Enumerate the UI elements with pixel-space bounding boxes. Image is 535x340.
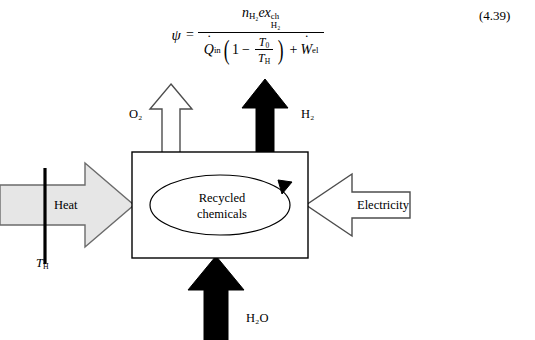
electricity-arrow-label: Electricity	[357, 198, 409, 213]
heat-arrow-label: Heat	[54, 198, 78, 213]
recycle-loop-label: Recycled chemicals	[192, 191, 252, 222]
process-diagram	[0, 0, 535, 340]
oxygen-arrow	[150, 84, 192, 154]
recycle-loop-label-line1: Recycled	[192, 191, 252, 207]
recycle-loop-label-line2: chemicals	[192, 207, 252, 223]
water-arrow	[188, 256, 244, 340]
hydrogen-label: H₂	[301, 107, 314, 122]
temperature-marker-label: TH	[36, 256, 49, 271]
hydrogen-arrow	[242, 79, 288, 154]
temperature-marker-subscript: H	[43, 262, 49, 271]
water-label: H₂O	[246, 311, 268, 326]
oxygen-label: O₂	[129, 107, 142, 122]
temperature-marker-symbol: T	[36, 256, 43, 270]
